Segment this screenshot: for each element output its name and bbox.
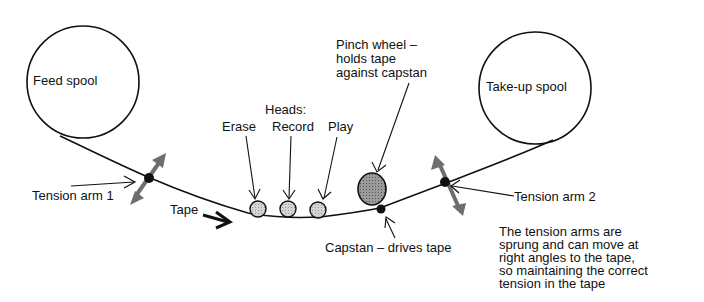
tape-path xyxy=(60,136,553,218)
tension-arm-1 xyxy=(130,153,166,205)
tape-direction-arrow xyxy=(203,212,230,228)
head-record-label: Record xyxy=(272,120,314,134)
feed-spool-label: Feed spool xyxy=(33,74,97,88)
pinch-wheel xyxy=(358,83,409,205)
tension-arm-2-label: Tension arm 2 xyxy=(514,190,596,204)
tension-arm-1-label: Tension arm 1 xyxy=(32,189,114,203)
record-head xyxy=(280,136,296,217)
capstan-label: Capstan – drives tape xyxy=(325,241,451,255)
capstan xyxy=(377,205,396,239)
tension-arm-2 xyxy=(431,155,466,216)
head-play-label: Play xyxy=(328,120,353,134)
tension-note: The tension arms are sprung and can move… xyxy=(499,225,648,290)
tape-label: Tape xyxy=(170,203,198,217)
play-head xyxy=(310,137,337,218)
heads-title: Heads: xyxy=(265,103,306,117)
head-erase-label: Erase xyxy=(222,120,256,134)
takeup-spool-label: Take-up spool xyxy=(486,80,567,94)
pinch-wheel-label: Pinch wheel – holds tape against capstan xyxy=(336,38,427,80)
erase-head xyxy=(246,136,266,217)
